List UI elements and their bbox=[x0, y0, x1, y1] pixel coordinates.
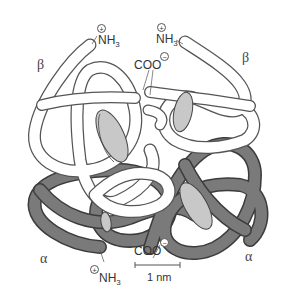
scale-bar-label: 1 nm bbox=[147, 271, 171, 283]
negative-charge-icon: − bbox=[160, 238, 169, 247]
c-terminus-label-beta: COO bbox=[134, 59, 161, 71]
beta-subunit-label-left: β bbox=[37, 58, 44, 72]
positive-charge-icon: + bbox=[90, 265, 99, 274]
c-terminus-label-alpha: COO bbox=[134, 245, 161, 257]
n-terminus-label-beta-right: NH3 bbox=[156, 33, 178, 48]
negative-charge-icon: − bbox=[160, 52, 169, 61]
n-terminus-label-alpha: NH3 bbox=[99, 272, 121, 287]
positive-charge-icon: + bbox=[157, 23, 166, 32]
scale-bar bbox=[135, 262, 180, 268]
n-terminus-label-beta-left: NH3 bbox=[98, 34, 120, 49]
alpha-subunit-label-left: α bbox=[40, 252, 47, 266]
positive-charge-icon: + bbox=[97, 24, 106, 33]
beta-subunit-label-right: β bbox=[242, 51, 249, 65]
alpha-subunit-label-right: α bbox=[245, 250, 252, 264]
